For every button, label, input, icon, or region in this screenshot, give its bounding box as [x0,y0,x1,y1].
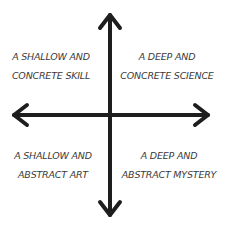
quadrant-top-right-line1: A DEEP AND [112,47,222,66]
quadrant-top-left-line2: CONCRETE SKILL [0,66,106,85]
quadrant-bottom-left-label: A SHALLOW AND ABSTRACT ART [0,146,108,184]
quadrant-bottom-left-line1: A SHALLOW AND [0,146,108,165]
quadrant-top-right-label: A DEEP AND CONCRETE SCIENCE [112,47,222,85]
quadrant-top-right-line2: CONCRETE SCIENCE [112,66,222,85]
quadrant-bottom-right-line1: A DEEP AND [114,146,224,165]
quadrant-top-left-line1: A SHALLOW AND [0,47,106,66]
quadrant-top-left-label: A SHALLOW AND CONCRETE SKILL [0,47,106,85]
quadrant-bottom-right-label: A DEEP AND ABSTRACT MYSTERY [114,146,224,184]
quadrant-bottom-left-line2: ABSTRACT ART [0,165,108,184]
quadrant-bottom-right-line2: ABSTRACT MYSTERY [114,165,224,184]
quadrant-axes [0,0,230,230]
